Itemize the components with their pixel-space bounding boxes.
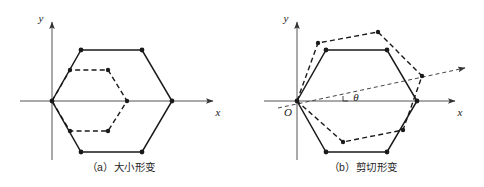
vertex-dot (140, 48, 145, 53)
vertex-dot (68, 68, 72, 72)
vertex-dot (79, 48, 84, 53)
vertex-dot (324, 48, 329, 53)
caption-panel-b: （b）剪切形变 (242, 159, 484, 174)
figure-root: y x （a）大小形变 (0, 0, 484, 187)
panel-size-deformation: y x （a）大小形变 (0, 0, 242, 187)
vertex-dot (385, 150, 390, 155)
x-axis-label-b: x (457, 106, 463, 118)
vertex-dot (401, 128, 405, 132)
vertex-dot (295, 99, 300, 104)
vertex-dot (385, 48, 390, 53)
vertex-dot (106, 68, 110, 72)
y-axis-label-b: y (283, 12, 289, 24)
vertex-dot (68, 129, 72, 133)
vertex-dot (106, 129, 110, 133)
vertex-dot (316, 41, 320, 45)
vertex-dot (125, 99, 129, 103)
vertex-dot (324, 150, 329, 155)
vertex-dot (140, 150, 145, 155)
vertex-dot (50, 99, 55, 104)
y-axis-label-a: y (38, 12, 44, 24)
vertex-dot (79, 150, 84, 155)
x-axis-label-a: x (215, 106, 221, 118)
vertex-dot (420, 74, 424, 78)
angle-theta-label: θ (353, 91, 359, 103)
origin-label-b: O (284, 106, 292, 118)
vertex-dot (376, 30, 380, 34)
caption-panel-a: （a）大小形变 (0, 159, 242, 174)
vertex-dot (170, 99, 175, 104)
panel-shear-deformation: y x O θ (242, 0, 484, 187)
vertex-dot (341, 140, 345, 144)
vertex-dot (415, 99, 420, 104)
angle-tick-marker (343, 96, 348, 101)
